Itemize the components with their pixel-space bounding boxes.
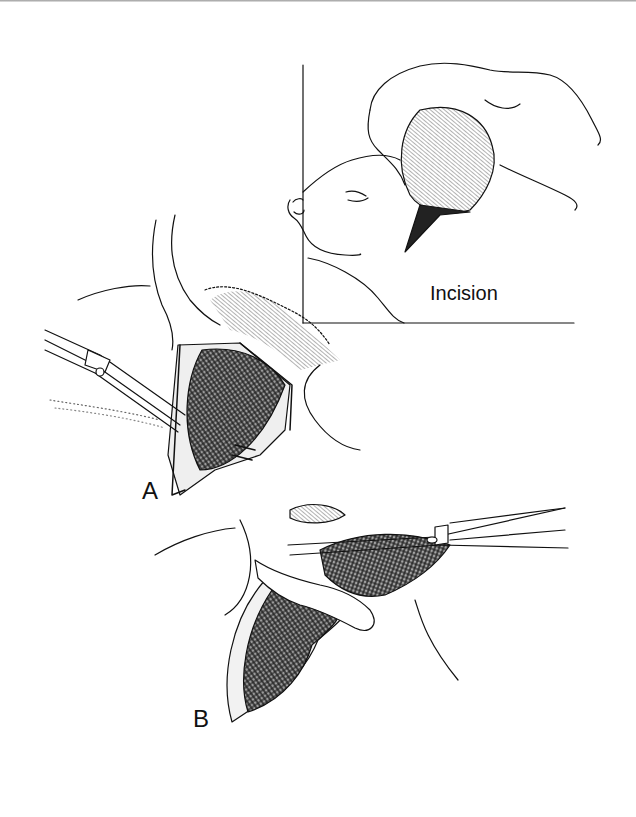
incision-label: Incision — [430, 282, 498, 305]
panel-b-label: B — [193, 705, 209, 733]
panel-a-scissors — [45, 330, 185, 432]
panel-a-label: A — [142, 477, 158, 505]
inset-ear-pouch — [401, 107, 494, 252]
surgical-illustration — [0, 0, 636, 817]
panel-b-incision — [227, 505, 450, 722]
inset-dog-head — [288, 155, 404, 323]
panel-a-incision — [168, 343, 290, 495]
